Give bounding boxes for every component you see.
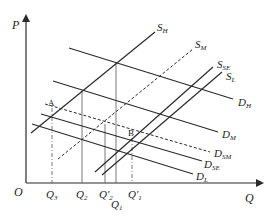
origin-label: O [14,186,23,198]
supply-curve-SSE [95,67,213,172]
demand-curve-DSE [41,114,202,161]
label-DH: DH [238,97,251,110]
label-SM: SM [195,39,206,52]
label-DM: DM [222,129,236,142]
point-B-label: B [128,129,134,138]
tick-Q3: Q3 [46,189,57,202]
demand-curve-DH [69,48,233,99]
supply-curve-SH [31,32,155,133]
tick-Qp1: Q'1 [128,189,142,202]
tick-Q2: Q2 [76,189,87,202]
tick-Q1: Q1 [111,199,122,212]
y-axis-label: P [12,19,19,31]
label-SH: SH [157,22,168,35]
label-DL: DL [196,171,208,184]
point-A-label: A [48,99,55,108]
x-axis-label: Q [245,192,254,204]
label-SL: SL [226,71,235,84]
